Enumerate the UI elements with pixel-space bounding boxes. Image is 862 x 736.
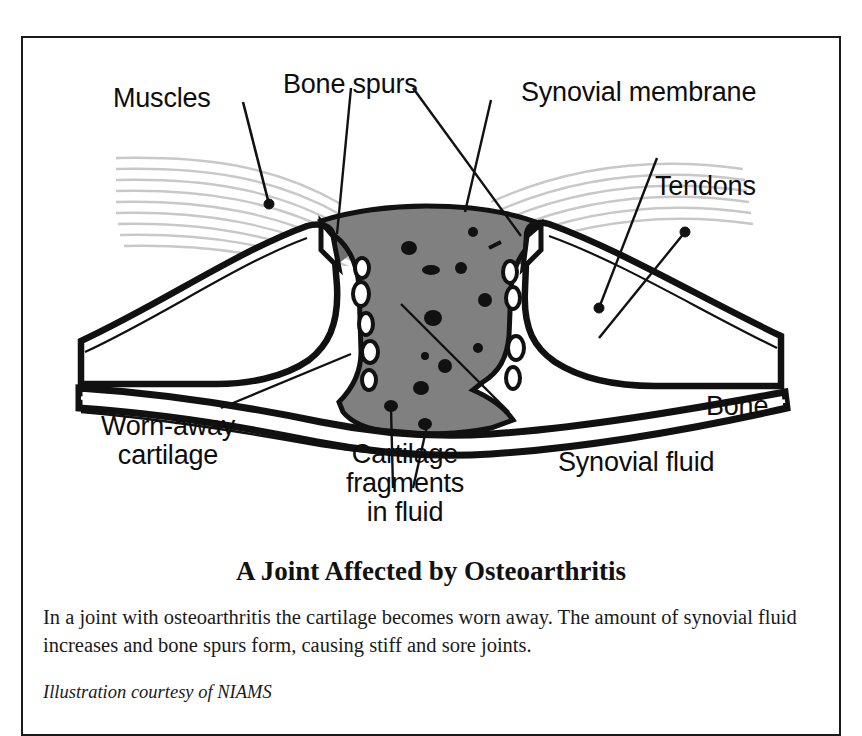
figure-title: A Joint Affected by Osteoarthritis: [21, 556, 841, 587]
label-synovial-membrane: Synovial membrane: [521, 78, 756, 107]
label-cartilage-fragments-in-fluid: Cartilage fragments in fluid: [300, 440, 510, 527]
label-worn-away-cartilage: Worn-away cartilage: [58, 412, 278, 470]
label-worn-away-cartilage-line2: cartilage: [58, 441, 278, 470]
label-cartilage-fragments-line2: fragments: [300, 469, 510, 498]
label-tendons: Tendons: [655, 172, 756, 201]
figure-credit: Illustration courtesy of NIAMS: [43, 682, 819, 703]
label-bone-spurs: Bone spurs: [283, 70, 418, 99]
label-synovial-fluid: Synovial fluid: [558, 448, 714, 477]
label-cartilage-fragments-line3: in fluid: [300, 498, 510, 527]
figure-body-text: In a joint with osteoarthritis the carti…: [43, 603, 819, 660]
label-cartilage-fragments-line1: Cartilage: [300, 440, 510, 469]
label-bone: Bone: [706, 392, 768, 421]
label-muscles: Muscles: [113, 84, 211, 113]
caption-block: A Joint Affected by Osteoarthritis In a …: [21, 548, 841, 703]
label-worn-away-cartilage-line1: Worn-away: [58, 412, 278, 441]
